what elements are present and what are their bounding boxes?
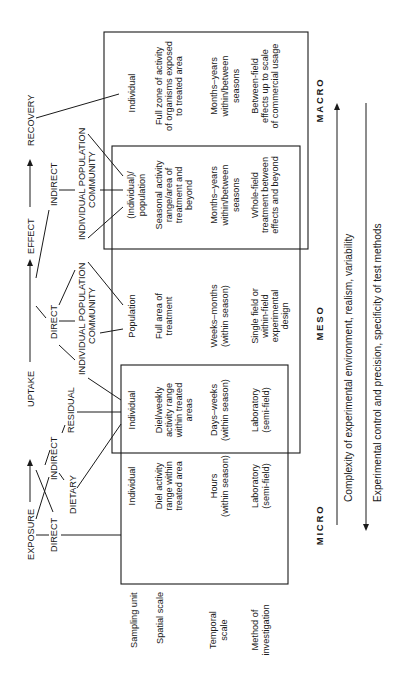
effect-direct-levels-1: INDIVIDUAL POPULATION [77, 263, 87, 375]
svg-text:(semi-field): (semi-field) [261, 463, 271, 508]
row-labels: Sampling unit Spatial scale Temporal sca… [129, 592, 271, 656]
svg-text:of organisms exposed: of organisms exposed [164, 41, 174, 131]
svg-text:Hours: Hours [209, 473, 219, 498]
indirect-dietary-line [59, 473, 64, 480]
row-label-method-2: investigation [261, 604, 271, 655]
svg-text:range within: range within [164, 461, 174, 511]
effect-indirect-label: INDIRECT [49, 162, 59, 206]
svg-text:effects and beyond: effects and beyond [270, 156, 280, 233]
svg-text:Whole-field: Whole-field [250, 172, 260, 218]
recovery-label: RECOVERY [26, 95, 36, 146]
svg-text:Between-field: Between-field [250, 58, 260, 114]
effect-direct-levels-2: COMMUNITY [87, 287, 97, 344]
svg-text:Days–weeks: Days–weeks [209, 384, 219, 436]
control-label: Experimental control and precision, spec… [372, 223, 383, 502]
effect-direct-label: DIRECT [49, 304, 59, 339]
row-label-sampling-unit: Sampling unit [129, 592, 139, 648]
row-label-method-1: Method of [250, 609, 260, 650]
micro-column: Individual Diel activity range within tr… [127, 455, 271, 517]
dietary-to-micro-line [77, 424, 121, 488]
uptake-label: UPTAKE [26, 371, 36, 407]
svg-text:treatment and: treatment and [174, 167, 184, 224]
svg-text:Individual: Individual [127, 391, 137, 430]
svg-text:activity range: activity range [164, 383, 174, 437]
svg-text:Full zone of activity: Full zone of activity [154, 47, 164, 126]
svg-text:design: design [280, 302, 290, 329]
svg-text:areas: areas [184, 398, 194, 421]
exposure-direct-label: DIRECT [49, 517, 59, 552]
svg-text:seasons: seasons [231, 68, 241, 103]
effect-indirect-levels-1: INDIVIDUAL POPULATION [77, 128, 87, 240]
svg-text:effects up to scale: effects up to scale [260, 49, 270, 123]
svg-text:Laboratory: Laboratory [250, 464, 260, 508]
svg-text:Single field or: Single field or [250, 288, 260, 344]
svg-text:(within season): (within season) [220, 285, 230, 347]
svg-text:of commercial usage: of commercial usage [270, 44, 280, 129]
svg-text:Seasonal activity: Seasonal activity [154, 160, 164, 229]
micro-scale-label: MICRO [314, 505, 325, 546]
svg-text:Individual: Individual [127, 74, 137, 113]
meso-scale-label: MESO [314, 305, 325, 340]
svg-text:Population: Population [127, 294, 137, 337]
micro-meso-column: Individual Diel/weekly activity range wi… [127, 379, 271, 441]
exposure-indirect-label: INDIRECT [49, 436, 59, 480]
svg-text:(semi-field): (semi-field) [261, 387, 271, 432]
indirect-residual-line [62, 425, 65, 433]
effect-direct-line [36, 306, 46, 318]
svg-text:treatment: treatment [164, 296, 174, 335]
svg-text:(within season): (within season) [220, 455, 230, 517]
svg-text:Weeks–months: Weeks–months [209, 284, 219, 348]
effect-indirect-line [36, 210, 49, 278]
residual-label: RESIDUAL [66, 387, 76, 433]
macro-scale-label: MACRO [314, 78, 325, 123]
micro-sampling-unit: Individual [127, 467, 137, 506]
exposure-label: EXPOSURE [26, 509, 36, 560]
dietary-label: DIETARY [68, 475, 78, 514]
svg-text:treated area: treated area [174, 460, 184, 510]
svg-text:within-field: within-field [260, 294, 270, 338]
indirect-levels-lower-line [88, 207, 123, 238]
svg-text:Diel/weekly: Diel/weekly [154, 386, 164, 433]
svg-text:seasons: seasons [231, 177, 241, 212]
recovery-to-individual-line [36, 94, 119, 118]
direct-population-upper-line [59, 270, 75, 305]
scale-diagram: EXPOSURE UPTAKE EFFECT RECOVERY DIRECT I… [0, 0, 400, 680]
macro-column: Individual Full zone of activity of orga… [127, 41, 280, 131]
svg-text:experimental: experimental [270, 290, 280, 343]
svg-text:range/area of: range/area of [164, 167, 174, 222]
complexity-label: Complexity of experimental environment, … [343, 233, 354, 502]
meso-column: Population Full area of treatment Weeks–… [127, 284, 290, 348]
svg-text:Months–years: Months–years [209, 57, 219, 115]
svg-text:beyond: beyond [184, 180, 194, 210]
svg-text:within/between: within/between [220, 56, 230, 118]
row-label-temporal-2: scale [219, 619, 229, 640]
svg-text:Diel activity: Diel activity [154, 462, 164, 509]
effect-indirect-levels-2: COMMUNITY [87, 151, 97, 208]
row-label-temporal-1: Temporal [208, 611, 218, 649]
svg-text:treatment between: treatment between [260, 157, 270, 233]
svg-text:to treated area: to treated area [174, 55, 184, 116]
svg-text:(Individual)/: (Individual)/ [126, 171, 136, 219]
direct-population-lower-line [59, 345, 75, 360]
row-label-spatial-scale: Spatial scale [155, 592, 165, 644]
levels-to-individual-line [88, 378, 121, 400]
effect-label: EFFECT [26, 218, 36, 254]
svg-text:within treated: within treated [174, 383, 184, 439]
svg-text:(within season): (within season) [220, 379, 230, 441]
svg-text:Laboratory: Laboratory [250, 388, 260, 432]
svg-text:population: population [137, 174, 147, 216]
svg-text:Months–years: Months–years [209, 166, 219, 224]
svg-text:Full area of: Full area of [154, 293, 164, 339]
svg-text:within/between: within/between [220, 165, 230, 227]
meso-macro-column: (Individual)/ population Seasonal activi… [126, 156, 280, 233]
